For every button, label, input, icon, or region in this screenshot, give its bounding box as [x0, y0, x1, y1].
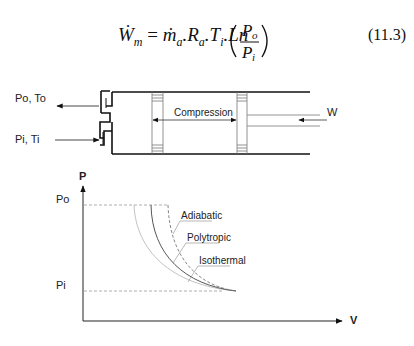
- v-axis-label: V: [350, 314, 358, 326]
- frac-numerator: P: [241, 21, 252, 40]
- polytropic-label: Polytropic: [187, 232, 231, 243]
- pi-tick-label: Pi: [56, 279, 66, 291]
- eq-fraction: P o P i: [231, 21, 267, 63]
- frac-denominator: P: [241, 43, 252, 62]
- piston-rod: [247, 115, 320, 126]
- isothermal-leader: [188, 266, 230, 282]
- left-paren: [231, 25, 236, 57]
- p-axis-label: P: [79, 170, 86, 182]
- work-label: W: [327, 106, 338, 118]
- pv-chart: P V Po Pi Adiabatic Polytropic Isotherma…: [56, 170, 358, 326]
- piston-right: [237, 92, 247, 154]
- adiabatic-label: Adiabatic: [181, 210, 222, 221]
- frac-num-sub: o: [252, 29, 258, 41]
- po-tick-label: Po: [56, 193, 69, 205]
- inlet-label: Pi, Ti: [15, 133, 39, 145]
- frac-den-sub: i: [252, 51, 255, 63]
- compression-label: Compression: [174, 107, 233, 118]
- piston-left: [152, 92, 163, 154]
- right-paren: [262, 25, 267, 57]
- outlet-label: Po, To: [15, 92, 46, 104]
- diagram-canvas: P o P i Po, To Pi, Ti: [0, 0, 414, 346]
- isothermal-label: Isothermal: [199, 255, 246, 266]
- compressor-cylinder: [100, 91, 310, 154]
